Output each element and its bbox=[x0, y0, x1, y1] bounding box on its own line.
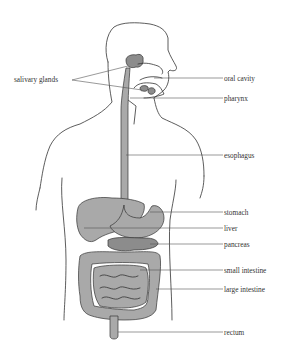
rectum bbox=[110, 316, 118, 339]
label-rectum: rectum bbox=[224, 328, 245, 337]
label-liver: liver bbox=[224, 224, 238, 233]
label-small-intestine: small intestine bbox=[224, 266, 266, 275]
label-pharynx: pharynx bbox=[224, 94, 248, 103]
label-oral-cavity: oral cavity bbox=[224, 74, 255, 83]
esophagus bbox=[121, 68, 130, 210]
small-intestine bbox=[93, 265, 148, 308]
label-salivary-glands: salivary glands bbox=[14, 75, 58, 84]
label-pancreas: pancreas bbox=[224, 240, 250, 249]
oral-cavity bbox=[128, 63, 164, 124]
label-stomach: stomach bbox=[224, 208, 249, 217]
digestive-system-diagram: salivary glands oral cavity pharynx esop… bbox=[0, 0, 291, 358]
label-large-intestine: large intestine bbox=[224, 285, 265, 294]
label-esophagus: esophagus bbox=[224, 151, 255, 160]
